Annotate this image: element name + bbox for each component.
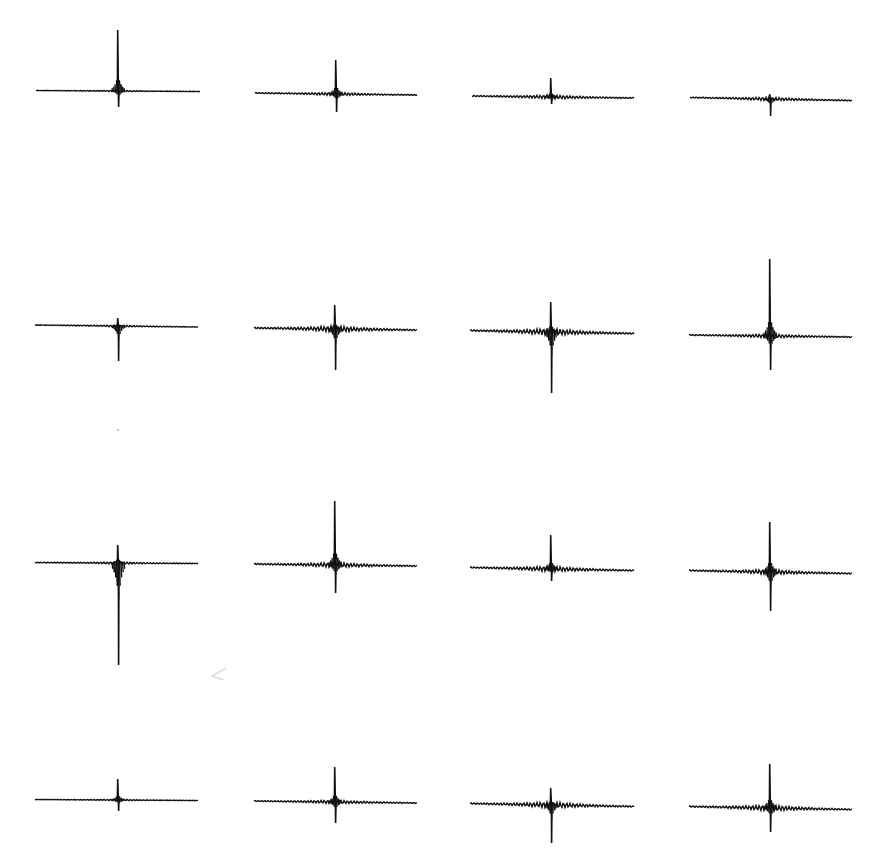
waveform-spike [334, 501, 336, 593]
waveform-panel-r2c4 [689, 259, 852, 370]
waveform-burst [545, 324, 558, 354]
waveform-grid-figure [0, 0, 885, 863]
scan-artifact-dot [117, 429, 119, 431]
waveform-panel-r1c2 [255, 60, 417, 112]
waveform-panel-r2c2 [254, 305, 417, 370]
waveform-burst [112, 794, 125, 804]
waveform-spike [550, 78, 552, 104]
waveform-panel-r2c1 [35, 318, 198, 361]
waveform-burst [330, 85, 343, 101]
waveform-panel-r4c3 [470, 788, 634, 843]
waveform-burst [764, 314, 777, 348]
waveform-burst [112, 558, 125, 599]
waveform-panel-r1c1 [36, 30, 200, 107]
waveform-burst [764, 796, 777, 817]
waveform-panel-r4c1 [35, 779, 198, 811]
waveform-panel-r3c4 [689, 522, 852, 611]
scan-artifact-mark [212, 668, 226, 680]
waveform-panel-r1c4 [690, 94, 852, 116]
waveform-panel-r4c4 [689, 764, 852, 832]
waveform-panel-r3c2 [254, 501, 417, 593]
waveform-panel-r3c1 [35, 545, 198, 665]
waveform-panel-r4c2 [254, 767, 417, 823]
waveform-panel-r2c3 [470, 302, 634, 393]
waveform-burst [764, 558, 777, 586]
waveform-burst [764, 98, 777, 105]
waveform-burst [112, 324, 125, 339]
waveform-panel-r3c3 [470, 535, 634, 581]
waveform-burst [112, 74, 125, 97]
waveform-burst [329, 547, 342, 575]
waveform-spike [550, 535, 552, 581]
waveform-panel-r1c3 [472, 78, 634, 104]
waveform-burst [329, 792, 342, 809]
